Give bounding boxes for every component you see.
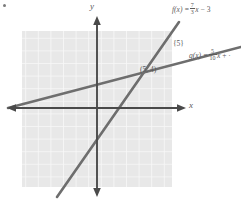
function-g-slope-denominator: 10 <box>209 54 217 61</box>
function-g-label: g(x) =510x + · <box>189 48 231 61</box>
y-axis-label: y <box>90 1 94 11</box>
function-f-label: f(x) =73x − 3 <box>172 2 210 15</box>
coordinate-plane-svg <box>0 0 241 200</box>
solution-set-label: {5} <box>173 39 184 48</box>
graph-figure: y x f(x) =73x − 3 {5} g(x) =510x + · (5,… <box>0 0 241 200</box>
function-f-name: f(x) = <box>172 5 189 14</box>
function-g-name: g(x) = <box>189 51 208 60</box>
function-g-variable: x <box>217 51 220 60</box>
function-f-constant: − 3 <box>201 5 211 14</box>
stray-mark <box>3 4 6 7</box>
function-g-constant: + · <box>222 51 231 60</box>
function-f-variable: x <box>195 5 198 14</box>
x-axis-label: x <box>189 100 193 110</box>
intersection-point-label: (5, 4) <box>140 65 156 74</box>
function-g-slope-fraction: 510 <box>209 48 217 61</box>
